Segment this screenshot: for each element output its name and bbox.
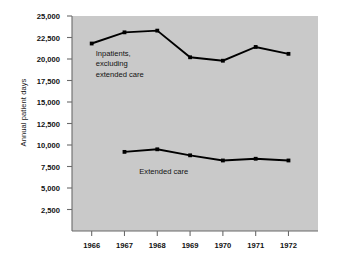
chart-container: Annual patient days 2,5005,0007,50010,00…	[0, 0, 338, 264]
series-label-inpatients: Inpatients, excluding extended care	[96, 49, 144, 81]
series-label-extended-care: Extended care	[139, 167, 188, 178]
plot-area	[0, 0, 338, 264]
